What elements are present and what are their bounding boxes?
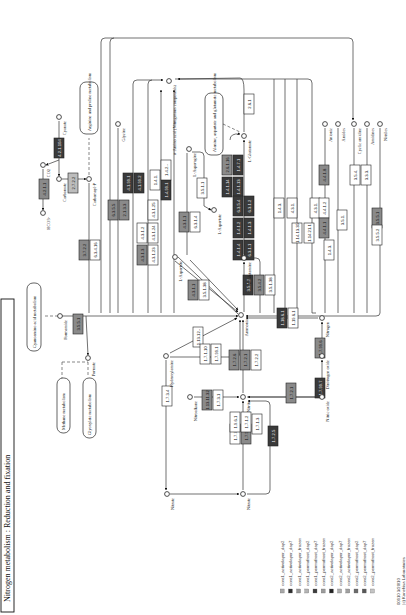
enzyme-box[interactable]: 4.3.1.25 [148, 200, 158, 220]
enzyme-box[interactable]: 4.4.1.8 [319, 165, 329, 185]
enzyme-box[interactable]: 1.7.1.2 [241, 412, 251, 432]
enzyme-label: 1.7.2.5 [271, 429, 276, 442]
enzyme-box[interactable]: 6.3.5.5 [108, 200, 118, 220]
map-link-glyoxylate[interactable]: Glyoxylate metabolism [83, 378, 96, 438]
enzyme-box[interactable]: 1.14.21.1 [304, 223, 314, 243]
legend-label: core1_activelayer_day2 [280, 540, 285, 586]
enzyme-box[interactable]: 1.7.2.1 [240, 350, 250, 370]
compound-l_asparagine[interactable]: L-Asparagine [187, 147, 197, 177]
map-link-methane[interactable]: Methane metabolism [57, 378, 70, 433]
enzyme-box[interactable]: 1.4.7.1 [233, 155, 243, 175]
enzyme-box[interactable]: 1.7.2.1 [286, 383, 296, 403]
map-label: Arginine and proline metabolism [87, 72, 92, 131]
compound-anionic[interactable]: Anionic [323, 122, 333, 142]
enzyme-box[interactable]: 1.14.13.35 [292, 222, 302, 243]
compound-carbamoyl_p[interactable]: Carbamoyl-P [87, 177, 97, 206]
compound-co2[interactable]: CO2 [41, 163, 51, 178]
compound-formamide[interactable]: Formamide [58, 314, 68, 340]
enzyme-box[interactable]: 4.2.1.1 [39, 179, 49, 199]
compound-nitroalkane[interactable]: Nitroalkane [188, 395, 198, 422]
enzyme-box[interactable]: 1.4.1. [150, 170, 160, 190]
compound-aa[interactable]: α-Amino acid (Nitrogenous compounds) [167, 79, 177, 155]
legend-label: core2_activelayer_day2 [329, 540, 334, 586]
enzyme-box[interactable]: 1.4.2.- [161, 160, 171, 180]
enzyme-box[interactable]: 2.6.1.16 [222, 155, 232, 175]
enzyme-box[interactable]: 3.5.1. [337, 210, 347, 230]
enzyme-box[interactable]: 3.5.1.38 [199, 280, 209, 300]
enzyme-box[interactable]: 3.5.5.1 [73, 314, 83, 334]
compound-glycine[interactable]: Glycine [116, 122, 126, 142]
enzyme-box[interactable]: 1.4.3. [324, 240, 334, 260]
enzyme-box[interactable]: 1.7.3.1 [213, 390, 223, 410]
enzyme-box[interactable]: 1.4.1.13 [233, 177, 243, 197]
compound-nitrate2[interactable]: Nitrate [241, 492, 251, 510]
compound-cyclic_amidine[interactable]: Cyclic amidine [352, 122, 362, 155]
enzyme-box[interactable]: 4.4.1.1 [319, 218, 329, 238]
enzyme-box[interactable]: 1.7.2.5 [268, 426, 278, 446]
map-link-arginine[interactable]: Arginine and proline metabolism [80, 72, 98, 134]
enzyme-box[interactable]: 4.1.99.1 [123, 173, 133, 193]
enzyme-label: 4.1.99.2 [137, 175, 142, 191]
compound-formate[interactable]: Formate [86, 356, 96, 377]
enzyme-box[interactable]: 1.7.2.2 [251, 350, 261, 370]
enzyme-box[interactable]: 1.7.99.1 [211, 344, 221, 364]
enzyme-box[interactable]: 4.4.1.2 [319, 198, 329, 218]
enzyme-label: 1.7.2.1 [243, 353, 248, 366]
compound-l_aspartate_right[interactable]: L-Aspartate [212, 208, 222, 235]
compound-nitric_oxide[interactable]: Nitric oxide [320, 395, 330, 422]
enzyme-box[interactable]: 1.7.2.6 [229, 350, 239, 370]
enzyme-box[interactable]: 3.7.2.2 [79, 240, 89, 260]
enzyme-box[interactable]: 4.3.1.23 [148, 245, 158, 265]
compound-nitrogen[interactable]: Nitrogen [320, 316, 330, 338]
enzyme-box[interactable]: 1.4.3. [274, 198, 284, 218]
enzyme-box[interactable]: 6.3.1.4 [190, 212, 200, 232]
enzyme-box[interactable]: 3.5.5.2 [372, 225, 382, 245]
enzyme-box[interactable]: 3.5.4.2 [254, 275, 264, 295]
enzyme-box[interactable]: 6.3.1.2 [244, 196, 254, 216]
enzyme-label: 1.7.3.4 [165, 389, 170, 402]
enzyme-box[interactable]: 4.3.1.24 [148, 223, 158, 243]
enzyme-box[interactable]: 3.3.3. [361, 165, 371, 185]
compound-label: Glycine [121, 128, 126, 142]
map-link-cyanoamino[interactable]: Cyanoamino acid metabolism [27, 283, 41, 351]
enzyme-box[interactable]: 1.7.1.10 [200, 344, 210, 364]
enzyme-box[interactable]: 4.3.1. [310, 198, 320, 218]
enzyme-box[interactable]: 1.4.1.14 [222, 177, 232, 197]
enzyme-box[interactable]: 2.6.1 [244, 94, 254, 114]
compound-hydroxylamine[interactable]: Hydroxylamine [164, 354, 174, 387]
enzyme-box[interactable]: 4.3.1.1 [188, 280, 198, 300]
enzyme-box[interactable]: 1.13.11.32 [202, 390, 212, 410]
enzyme-box[interactable]: 1.4.99.1 [161, 180, 171, 200]
enzyme-box[interactable]: 3.5.4. [350, 165, 360, 185]
enzyme-box[interactable]: 2.1.3.3 [119, 200, 129, 220]
enzyme-box[interactable]: 1.7.3.4 [162, 386, 172, 406]
enzyme-box[interactable]: 1.4.1.3 [244, 218, 254, 238]
enzyme-box[interactable]: 6.3.5.4 [233, 196, 243, 216]
compound-amidines[interactable]: Amidines [365, 122, 375, 145]
enzyme-box[interactable]: 1.18.6.1 [277, 308, 287, 328]
enzyme-box[interactable]: 4.3.1.1 [179, 212, 189, 232]
compound-carbamate[interactable]: Carbamate [57, 177, 67, 202]
enzyme-label: 1.13.12.- [196, 328, 201, 345]
enzyme-box[interactable]: 4.3.1.2 [137, 223, 147, 243]
enzyme-box[interactable]: 4.2.1.104 [54, 138, 64, 158]
enzyme-box[interactable]: 3.5.1.1 [197, 178, 207, 198]
enzyme-box[interactable]: 1.9.6.1 [230, 412, 240, 432]
enzyme-box[interactable]: 2.7.2.2 [68, 173, 78, 193]
enzyme-box[interactable]: 4.3.1. [287, 198, 297, 218]
enzyme-box[interactable]: 1.7.1.3 [252, 414, 262, 434]
compound-label: Carbamoyl-P [92, 182, 97, 206]
compound-nitrate1[interactable]: Nitrate [165, 492, 175, 510]
enzyme-box[interactable]: 4.3.1.3 [137, 245, 147, 265]
compound-cyanate[interactable]: Cyanate [57, 115, 67, 135]
enzyme-box[interactable]: 1.19.6.1 [288, 308, 298, 328]
enzyme-box[interactable]: 6.3.4.16 [90, 240, 100, 260]
compound-hco3[interactable]: HCO3- [41, 211, 51, 230]
enzyme-box[interactable]: 3.5.1.38 [265, 275, 275, 295]
enzyme-label: 4.1.99.1 [126, 175, 131, 191]
map-link-alanine[interactable]: Alanine, aspartate and glutamate metabol… [205, 72, 223, 155]
compound-nitriles[interactable]: Nitriles [378, 122, 388, 141]
enzyme-box[interactable]: 1.4.1.2 [233, 218, 243, 238]
enzyme-box[interactable]: 4.1.99.2 [134, 173, 144, 193]
compound-amides[interactable]: Amides [336, 122, 346, 142]
